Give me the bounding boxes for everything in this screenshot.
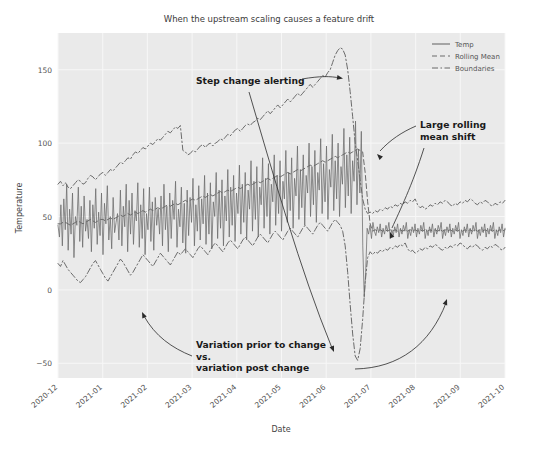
- legend-label-rolling-mean: Rolling Mean: [455, 53, 500, 61]
- annotation-line: Large rolling: [420, 119, 486, 130]
- chart-canvas: −50050100150 2020-122021-012021-022021-0…: [0, 0, 538, 450]
- annotation-line: vs.: [196, 351, 211, 362]
- y-tick-label: 50: [42, 213, 52, 222]
- y-tick-label: 0: [47, 286, 52, 295]
- legend-label-temp: Temp: [454, 41, 474, 49]
- annotation-line: mean shift: [420, 131, 476, 142]
- chart-figure: −50050100150 2020-122021-012021-022021-0…: [0, 0, 538, 450]
- annotation-line: Step change alerting: [196, 75, 305, 86]
- y-tick-label: 150: [38, 66, 53, 75]
- y-axis-label: Temperature: [15, 183, 24, 235]
- legend-label-boundaries: Boundaries: [455, 65, 495, 73]
- y-tick-label: 100: [38, 139, 53, 148]
- x-axis-label: Date: [271, 425, 290, 434]
- annotation-line: variation post change: [196, 362, 309, 373]
- y-tick-label: −50: [36, 359, 52, 368]
- annotation-line: Variation prior to change: [196, 339, 326, 350]
- chart-title: When the upstream scaling causes a featu…: [164, 14, 375, 24]
